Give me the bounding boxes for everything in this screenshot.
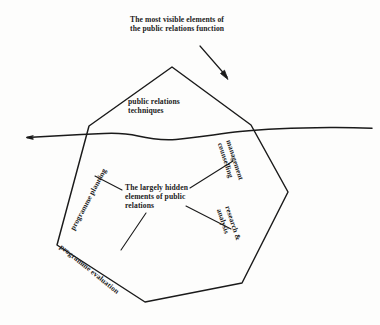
label-largely-hidden-elements: The largely hidden elements of public re… xyxy=(125,184,188,211)
connector-programme-evaluation xyxy=(121,213,146,250)
diagram-lines xyxy=(0,0,380,325)
waterline xyxy=(27,128,372,140)
iceberg-diagram: The most visible elements of the public … xyxy=(0,0,380,325)
label-public-relations-techniques: public relations techniques xyxy=(128,98,180,116)
caption-most-visible-elements: The most visible elements of the public … xyxy=(130,16,224,34)
